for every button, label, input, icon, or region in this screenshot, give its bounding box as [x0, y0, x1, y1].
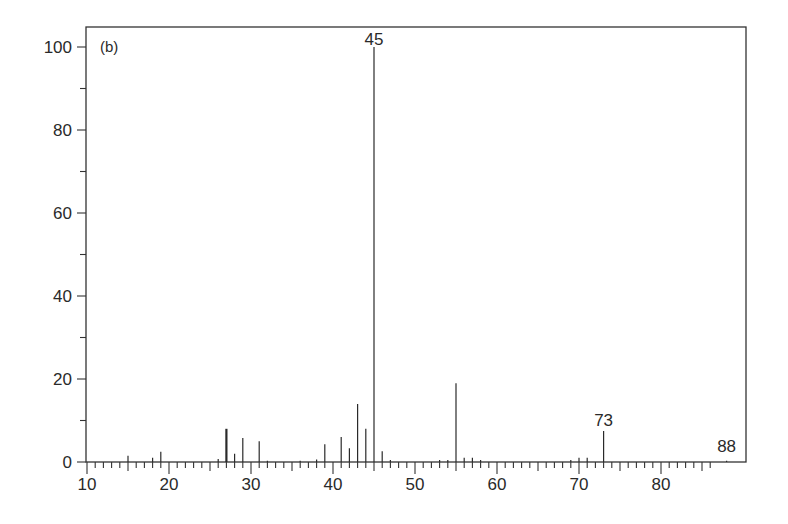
x-tick-label: 50 [406, 475, 425, 494]
y-tick-label: 60 [53, 204, 72, 223]
x-tick-label: 80 [652, 475, 671, 494]
peaks [128, 47, 727, 462]
x-tick-label: 60 [488, 475, 507, 494]
y-axis: 020406080100 [44, 38, 86, 472]
mass-spectrum-chart: (b) 020406080100 1020304050607080 457388 [0, 0, 788, 524]
x-tick-label: 40 [324, 475, 343, 494]
peak-annotations: 457388 [365, 30, 737, 456]
y-tick-label: 100 [44, 38, 72, 57]
peak-label-88: 88 [717, 437, 736, 456]
plot-frame [86, 27, 746, 462]
y-tick-label: 80 [53, 121, 72, 140]
x-axis: 1020304050607080 [78, 462, 711, 494]
x-tick-label: 20 [160, 475, 179, 494]
peak-label-73: 73 [594, 411, 613, 430]
y-tick-label: 40 [53, 287, 72, 306]
x-tick-label: 70 [570, 475, 589, 494]
x-tick-label: 30 [242, 475, 261, 494]
x-tick-label: 10 [78, 475, 97, 494]
peak-label-45: 45 [365, 30, 384, 49]
panel-label: (b) [100, 38, 118, 55]
y-tick-label: 20 [53, 370, 72, 389]
y-tick-label: 0 [63, 453, 72, 472]
